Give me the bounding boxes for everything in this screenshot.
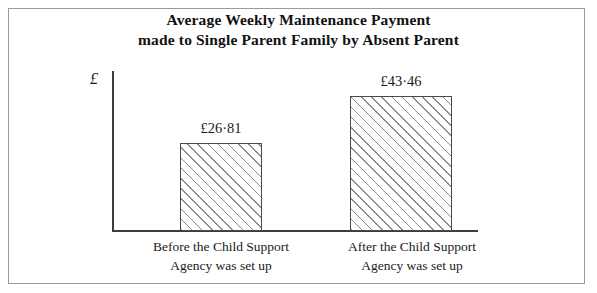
category-label-after-line-2: Agency was set up <box>322 257 502 276</box>
category-label-before-line-1: Before the Child Support <box>131 238 311 257</box>
bar-before-csa <box>180 143 262 231</box>
bar-after-csa <box>350 96 452 231</box>
y-axis-label: £ <box>90 70 98 88</box>
plot-area: £ £26·81 £43·46 Before the Child Support… <box>0 0 597 293</box>
category-label-before: Before the Child Support Agency was set … <box>131 238 311 275</box>
category-label-before-line-2: Agency was set up <box>131 257 311 276</box>
bar-value-label-after: £43·46 <box>350 73 452 90</box>
y-axis-line <box>112 71 114 232</box>
category-label-after: After the Child Support Agency was set u… <box>322 238 502 275</box>
chart-page: Average Weekly Maintenance Payment made … <box>0 0 597 293</box>
bar-value-label-before: £26·81 <box>180 120 262 137</box>
category-label-after-line-1: After the Child Support <box>322 238 502 257</box>
